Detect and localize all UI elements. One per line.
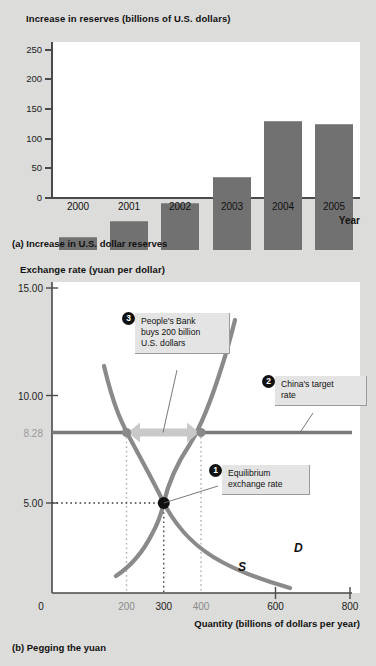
chart-a-y-tick [45, 197, 52, 199]
chart-b-y-label-500: 5.00 [0, 498, 43, 509]
bar-2003 [213, 177, 251, 250]
peg-supply-intersection-dot [196, 428, 205, 437]
bar-label-2002: 2002 [169, 201, 191, 212]
chart-a-y-label: 100 [26, 133, 42, 144]
callout-1-leader-line [164, 486, 218, 503]
peg-demand-intersection-dot [122, 428, 131, 437]
callout-3-line-3: U.S. dollars [141, 338, 224, 349]
bar-label-2005: 2005 [323, 201, 345, 212]
bar-2004 [264, 121, 302, 250]
bar-2005 [315, 124, 353, 250]
figure-page: Increase in reserves (billions of U.S. d… [0, 0, 376, 666]
callout-1-badge: 1 [209, 464, 222, 477]
chart-a-y-label: 200 [26, 73, 42, 84]
chart-a-caption: (a) Increase in U.S. dollar reserves [12, 238, 167, 249]
callout-2-line-2: rate [281, 390, 361, 401]
chart-a-x-axis-name: Year [339, 215, 360, 226]
callout-3-line-2: buys 200 billion [141, 327, 224, 338]
callout-1-line-2: exchange rate [228, 479, 304, 490]
chart-a-y-label: 150 [26, 103, 42, 114]
bar-label-2003: 2003 [221, 201, 243, 212]
chart-a-y-axis [51, 42, 53, 199]
chart-a-y-tick [45, 138, 52, 140]
chart-b-x-label-800: 800 [342, 601, 359, 612]
chart-a-title: Increase in reserves (billions of U.S. d… [26, 13, 231, 24]
chart-a-y-tick [45, 49, 52, 51]
demand-curve-label: D [294, 541, 303, 555]
chart-a-y-tick [45, 108, 52, 110]
chart-a-y-label: 0 [37, 192, 42, 203]
chart-a-x-axis [51, 197, 360, 199]
callout-3-leader-line [163, 370, 177, 433]
bar-label-2000: 2000 [67, 201, 89, 212]
callout-3-box: People's Bank buys 200 billion U.S. doll… [135, 313, 230, 354]
chart-b-x-label-0: 0 [38, 601, 44, 612]
chart-a-y-tick [45, 167, 52, 169]
chart-a-y-label: 250 [26, 44, 42, 55]
bar-label-2001: 2001 [118, 201, 140, 212]
chart-increase-in-reserves: Increase in reserves (billions of U.S. d… [0, 0, 376, 250]
chart-b-x-label-200: 200 [118, 601, 135, 612]
callout-1-box: Equilibrium exchange rate [222, 465, 310, 495]
chart-a-y-tick [45, 78, 52, 80]
chart-b-x-axis-name: Quantity (billions of dollars per year) [194, 618, 360, 629]
chart-pegging-the-yuan: Exchange rate (yuan per dollar) [0, 258, 376, 666]
chart-b-x-label-600: 600 [267, 601, 284, 612]
callout-1-line-1: Equilibrium [228, 468, 304, 479]
callout-3-line-1: People's Bank [141, 316, 224, 327]
callout-2-box: China's target rate [275, 376, 367, 406]
chart-b-y-label-828: 8.28 [0, 427, 43, 438]
supply-curve-label: S [238, 560, 246, 574]
chart-b-y-label-1000: 10.00 [0, 390, 43, 401]
bar-label-2004: 2004 [272, 201, 294, 212]
chart-b-x-label-300: 300 [155, 601, 172, 612]
intervention-arrow [128, 423, 199, 443]
callout-2-badge: 2 [262, 375, 275, 388]
callout-3-badge: 3 [122, 312, 135, 325]
chart-b-caption: (b) Pegging the yuan [12, 642, 106, 653]
callout-2-line-1: China's target [281, 379, 361, 390]
chart-b-x-label-400: 400 [193, 601, 210, 612]
callout-2-leader-line [300, 413, 313, 433]
chart-b-y-label-1500: 15.00 [0, 283, 43, 294]
chart-a-y-label: 50 [31, 162, 42, 173]
chart-a-plot-area [52, 42, 360, 198]
